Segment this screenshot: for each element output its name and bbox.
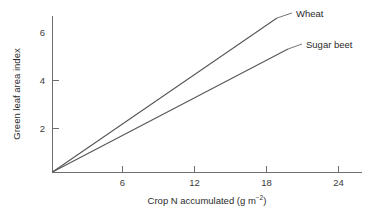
- chart-figure: 2 4 6 6 12 18 24 Crop N accumulated (g m…: [0, 0, 377, 217]
- x-tick-label-12: 12: [189, 177, 200, 188]
- plot-area: 2 4 6 6 12 18 24 Crop N accumulated (g m…: [0, 0, 377, 217]
- x-axis-title-end: ): [263, 195, 266, 206]
- x-axis-title-main: Crop N accumulated (g m: [148, 195, 256, 206]
- series-label-wheat: Wheat: [296, 8, 324, 19]
- y-tick-label-6: 6: [40, 27, 45, 38]
- series-line-sugar-beet: [53, 49, 289, 172]
- series-label-sugar-beet: Sugar beet: [306, 39, 353, 50]
- y-tick-label-2: 2: [40, 123, 45, 134]
- y-tick-label-4: 4: [40, 75, 45, 86]
- leader-line-sugar-beet: [288, 44, 302, 49]
- series-line-wheat: [53, 18, 278, 172]
- x-axis-title: Crop N accumulated (g m−2): [148, 194, 267, 206]
- y-axis-title: Green leaf area index: [11, 48, 22, 140]
- leader-line-wheat: [277, 13, 292, 18]
- x-tick-label-6: 6: [120, 177, 125, 188]
- x-tick-label-18: 18: [261, 177, 272, 188]
- x-tick-label-24: 24: [333, 177, 344, 188]
